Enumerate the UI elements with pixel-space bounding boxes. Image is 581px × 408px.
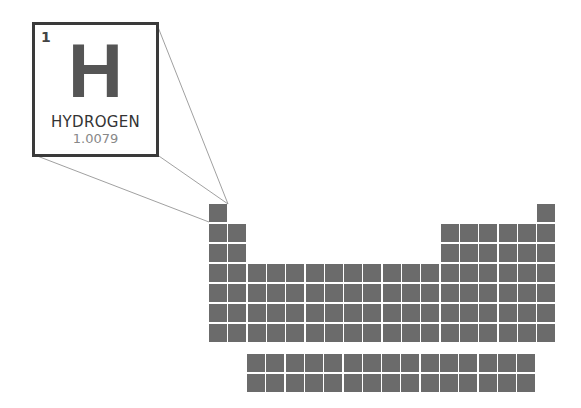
f-block-cell bbox=[479, 354, 497, 372]
element-cell bbox=[479, 264, 497, 282]
element-cell bbox=[209, 264, 227, 282]
element-cell bbox=[209, 324, 227, 342]
element-cell bbox=[518, 284, 536, 302]
f-block-cell bbox=[517, 374, 535, 392]
element-cell bbox=[383, 304, 401, 322]
element-cell bbox=[441, 264, 459, 282]
f-block-cell bbox=[479, 374, 497, 392]
f-block-cell bbox=[382, 374, 400, 392]
element-cell bbox=[537, 244, 555, 262]
f-block-cell bbox=[459, 374, 477, 392]
element-cell bbox=[306, 264, 324, 282]
element-cell bbox=[209, 284, 227, 302]
f-block-cell bbox=[324, 354, 342, 372]
element-cell bbox=[460, 244, 478, 262]
f-block-cell bbox=[382, 354, 400, 372]
element-cell bbox=[344, 324, 362, 342]
element-cell bbox=[363, 304, 381, 322]
f-block-cell bbox=[401, 354, 419, 372]
element-cell bbox=[267, 264, 285, 282]
element-cell bbox=[286, 264, 304, 282]
element-cell bbox=[479, 324, 497, 342]
element-cell bbox=[460, 264, 478, 282]
element-cell bbox=[421, 304, 439, 322]
f-block-cell bbox=[266, 354, 284, 372]
element-cell bbox=[325, 284, 343, 302]
element-cell bbox=[209, 224, 227, 242]
element-cell bbox=[421, 264, 439, 282]
f-block-cell bbox=[498, 354, 516, 372]
element-cell bbox=[518, 304, 536, 322]
element-cell bbox=[402, 304, 420, 322]
element-cell bbox=[499, 284, 517, 302]
element-cell bbox=[383, 324, 401, 342]
element-cell bbox=[460, 284, 478, 302]
f-block-cell bbox=[363, 354, 381, 372]
element-cell bbox=[209, 304, 227, 322]
element-cell bbox=[518, 244, 536, 262]
element-cell bbox=[248, 324, 266, 342]
element-cell bbox=[537, 204, 555, 222]
element-cell bbox=[402, 324, 420, 342]
element-cell bbox=[499, 244, 517, 262]
element-cell bbox=[228, 264, 246, 282]
element-cell bbox=[286, 284, 304, 302]
element-cell bbox=[325, 304, 343, 322]
f-block-cell bbox=[266, 374, 284, 392]
element-cell bbox=[537, 264, 555, 282]
element-cell bbox=[460, 304, 478, 322]
f-block-cell bbox=[421, 354, 439, 372]
element-cell bbox=[248, 264, 266, 282]
element-cell bbox=[499, 224, 517, 242]
element-cell bbox=[286, 324, 304, 342]
f-block-cell bbox=[305, 354, 323, 372]
element-cell bbox=[441, 224, 459, 242]
element-cell bbox=[537, 284, 555, 302]
element-cell bbox=[248, 304, 266, 322]
f-block-cell bbox=[324, 374, 342, 392]
element-cell bbox=[441, 244, 459, 262]
element-cell bbox=[441, 284, 459, 302]
element-cell bbox=[209, 204, 227, 222]
element-cell bbox=[402, 284, 420, 302]
element-cell bbox=[460, 224, 478, 242]
f-block-cell bbox=[286, 354, 304, 372]
element-cell bbox=[499, 264, 517, 282]
f-block-cell bbox=[286, 374, 304, 392]
element-cell bbox=[499, 324, 517, 342]
f-block-cell bbox=[401, 374, 419, 392]
element-cell bbox=[479, 284, 497, 302]
element-cell bbox=[441, 304, 459, 322]
element-cell bbox=[537, 304, 555, 322]
element-cell bbox=[306, 324, 324, 342]
element-cell bbox=[383, 284, 401, 302]
f-block-cell bbox=[498, 374, 516, 392]
element-cell bbox=[228, 284, 246, 302]
element-cell bbox=[479, 244, 497, 262]
element-cell bbox=[363, 264, 381, 282]
f-block-cell bbox=[344, 374, 362, 392]
element-cell bbox=[228, 224, 246, 242]
f-block-cell bbox=[247, 374, 265, 392]
element-cell bbox=[306, 284, 324, 302]
element-symbol: H bbox=[35, 31, 156, 111]
f-block-cell bbox=[305, 374, 323, 392]
element-cell bbox=[479, 304, 497, 322]
element-cell bbox=[306, 304, 324, 322]
element-cell bbox=[286, 304, 304, 322]
element-cell bbox=[402, 264, 420, 282]
element-cell bbox=[228, 324, 246, 342]
element-cell bbox=[344, 284, 362, 302]
element-cell bbox=[441, 324, 459, 342]
element-cell bbox=[499, 304, 517, 322]
element-cell bbox=[344, 304, 362, 322]
element-cell bbox=[363, 324, 381, 342]
element-cell bbox=[267, 324, 285, 342]
f-block-cell bbox=[440, 374, 458, 392]
element-cell bbox=[518, 264, 536, 282]
element-cell bbox=[344, 264, 362, 282]
element-cell bbox=[248, 284, 266, 302]
periodic-table-diagram: 1 H HYDROGEN 1.0079 bbox=[0, 0, 581, 408]
f-block-cell bbox=[440, 354, 458, 372]
element-cell bbox=[460, 324, 478, 342]
